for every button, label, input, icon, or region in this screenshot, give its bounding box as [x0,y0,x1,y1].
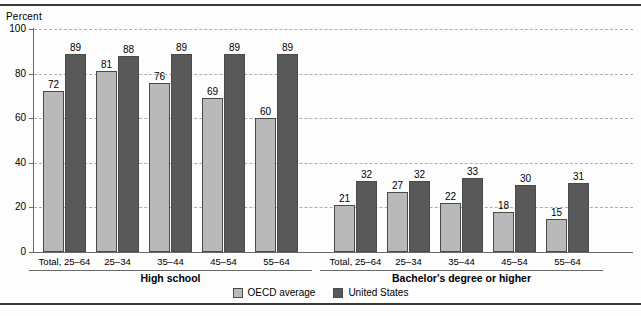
bar [171,54,192,252]
bar [546,219,567,252]
y-axis-tick-label: 0 [0,246,26,257]
legend-item: OECD average [233,287,316,298]
x-axis-category-label: 55–64 [532,256,603,267]
plot-area: 7289818876896989608921322732223318301531 [34,29,633,252]
bar-value-label: 89 [271,42,304,53]
bar-value-label: 32 [403,169,436,180]
bar-value-label: 89 [218,42,251,53]
y-axis-tick-label: 20 [0,201,26,212]
bar-value-label: 32 [350,169,383,180]
bar [149,83,170,252]
group-underline-rule [29,270,312,271]
legend-item: United States [333,287,408,298]
legend-label: United States [348,287,408,298]
bar [356,181,377,252]
legend-swatch-oecd [233,288,243,298]
bar [440,203,461,252]
bar [409,181,430,252]
bar [334,205,355,252]
top-divider-rule [0,4,641,6]
y-axis-unit-label: Percent [6,11,42,22]
chart-legend: OECD averageUnited States [0,287,641,298]
bar [277,54,298,252]
bar-value-label: 89 [59,42,92,53]
x-axis-line [33,252,633,253]
group-underline-rule [320,270,603,271]
y-axis-tick-label: 60 [0,112,26,123]
legend-label: OECD average [248,287,316,298]
chart-figure: Percent 020406080100 7289818876896989608… [0,0,641,316]
bar [65,54,86,252]
bar [255,118,276,252]
bottom-divider-rule [0,303,641,305]
bar-value-label: 30 [509,173,542,184]
bar-value-label: 33 [456,166,489,177]
bar-value-label: 89 [165,42,198,53]
bar [96,71,117,252]
bar [118,56,139,252]
x-axis-group-label: Bachelor's degree or higher [320,272,603,284]
bar [515,185,536,252]
x-axis-category-label: 55–64 [241,256,312,267]
bar [387,192,408,252]
legend-swatch-us [333,288,343,298]
bar [462,178,483,252]
x-axis-group-label: High school [29,272,312,284]
bar [493,212,514,252]
bar [43,91,64,252]
bar-value-label: 31 [562,171,595,182]
y-axis-tick-label: 80 [0,68,26,79]
bar [202,98,223,252]
y-axis-tick-label: 40 [0,157,26,168]
bar [224,54,245,252]
bar-value-label: 88 [112,44,145,55]
y-axis-tick-label: 100 [0,23,26,34]
gridline [34,29,633,30]
bar [568,183,589,252]
